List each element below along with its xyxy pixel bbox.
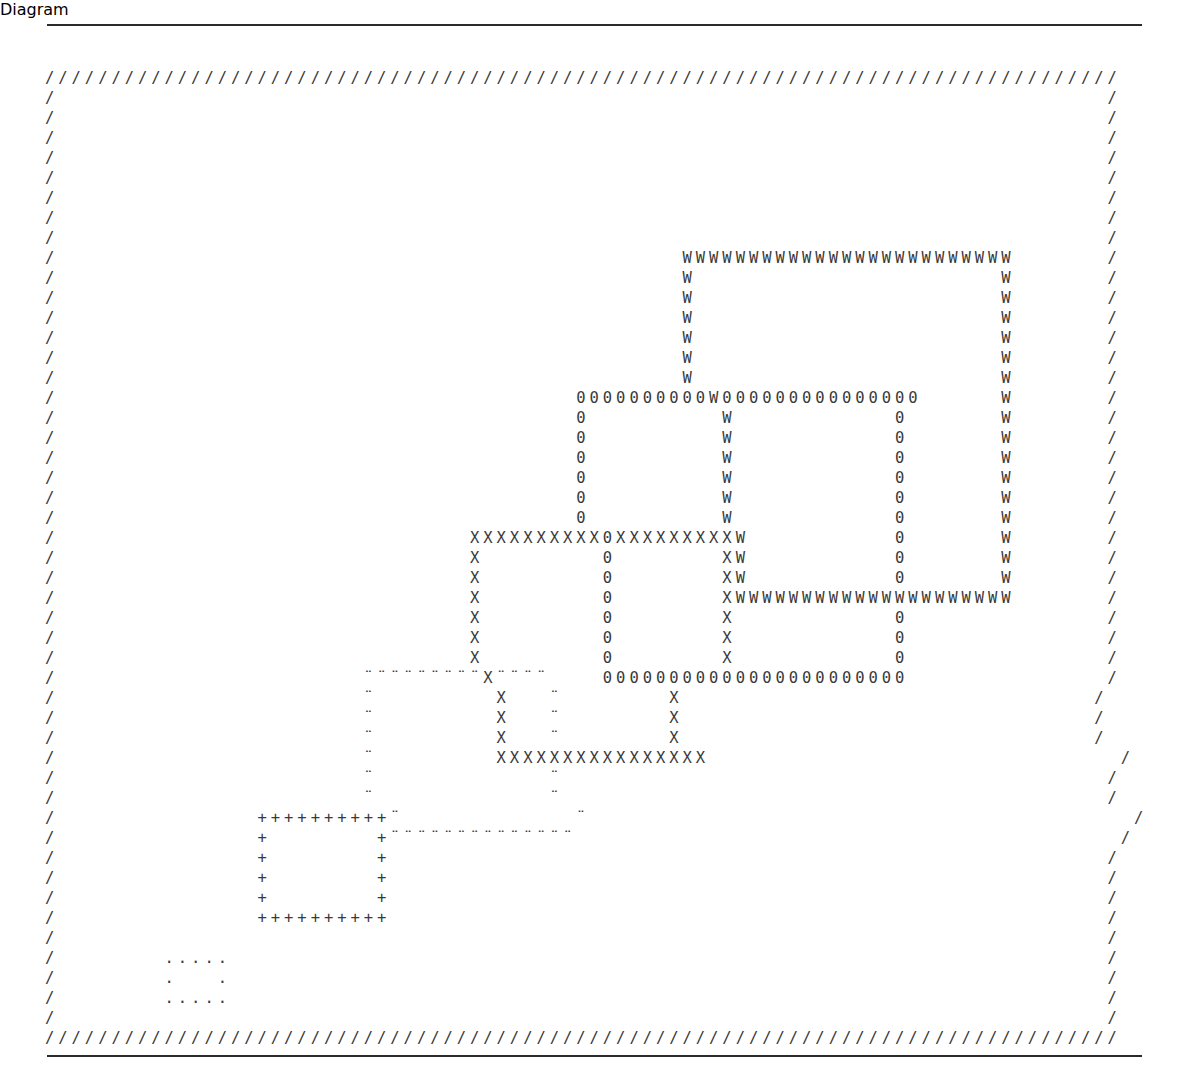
ascii-row-48: ////////////////////////////////////////… [45, 1028, 1147, 1048]
ascii-row-45: / . . / [45, 968, 1147, 988]
ascii-row-42: / ++++++++++ / [45, 908, 1147, 928]
ascii-row-16: / 0000000000W000000000000000 W / [45, 388, 1147, 408]
ascii-row-35: / ¨ ¨ / [45, 768, 1147, 788]
ascii-art-canvas: ////////////////////////////////////////… [45, 68, 1147, 1048]
ascii-row-15: / W W / [45, 368, 1147, 388]
ascii-row-20: / 0 W 0 W / [45, 468, 1147, 488]
ascii-row-11: / W W / [45, 288, 1147, 308]
ascii-row-21: / 0 W 0 W / [45, 488, 1147, 508]
ascii-row-17: / 0 W 0 W / [45, 408, 1147, 428]
ascii-row-24: / X 0 XW 0 W / [45, 548, 1147, 568]
ascii-row-44: / ..... / [45, 948, 1147, 968]
ascii-row-9: / WWWWWWWWWWWWWWWWWWWWWWWWW / [45, 248, 1147, 268]
ascii-row-7: / / [45, 208, 1147, 228]
ascii-row-32: / ¨ X ¨ X / [45, 708, 1147, 728]
ascii-row-23: / XXXXXXXXXX0XXXXXXXXXW 0 W / [45, 528, 1147, 548]
ascii-row-22: / 0 W 0 W / [45, 508, 1147, 528]
ascii-row-8: / / [45, 228, 1147, 248]
ascii-row-14: / W W / [45, 348, 1147, 368]
ascii-row-30: / ¨¨¨¨¨¨¨¨¨X¨¨¨¨ 00000000000000000000000… [45, 668, 1147, 688]
ascii-row-27: / X 0 X 0 / [45, 608, 1147, 628]
ascii-row-3: / / [45, 128, 1147, 148]
ascii-row-12: / W W / [45, 308, 1147, 328]
ascii-row-4: / / [45, 148, 1147, 168]
ascii-row-26: / X 0 XWWWWWWWWWWWWWWWWWWWWW / [45, 588, 1147, 608]
ascii-row-39: / + + / [45, 848, 1147, 868]
ascii-row-38: / + +¨¨¨¨¨¨¨¨¨¨¨¨¨¨ / [45, 828, 1147, 848]
ascii-row-13: / W W / [45, 328, 1147, 348]
ascii-row-0: ////////////////////////////////////////… [45, 68, 1147, 88]
ascii-row-31: / ¨ X ¨ X / [45, 688, 1147, 708]
ascii-row-46: / ..... / [45, 988, 1147, 1008]
ascii-row-18: / 0 W 0 W / [45, 428, 1147, 448]
bottom-horizontal-rule [47, 1055, 1142, 1057]
top-horizontal-rule [47, 24, 1142, 26]
ascii-row-34: / ¨ XXXXXXXXXXXXXXXX / [45, 748, 1147, 768]
ascii-row-33: / ¨ X ¨ X / [45, 728, 1147, 748]
ascii-row-2: / / [45, 108, 1147, 128]
ascii-row-41: / + + / [45, 888, 1147, 908]
ascii-row-1: / / [45, 88, 1147, 108]
ascii-row-29: / X 0 X 0 / [45, 648, 1147, 668]
page-root: ////////////////////////////////////////… [0, 0, 1189, 1071]
ascii-row-37: / ++++++++++¨ ¨ / [45, 808, 1147, 828]
ascii-row-10: / W W / [45, 268, 1147, 288]
ascii-row-36: / ¨ ¨ / [45, 788, 1147, 808]
ascii-row-6: / / [45, 188, 1147, 208]
ascii-row-28: / X 0 X 0 / [45, 628, 1147, 648]
ascii-row-40: / + + / [45, 868, 1147, 888]
ascii-row-25: / X 0 XW 0 W / [45, 568, 1147, 588]
ascii-row-43: / / [45, 928, 1147, 948]
ascii-row-47: / / [45, 1008, 1147, 1028]
ascii-row-5: / / [45, 168, 1147, 188]
ascii-row-19: / 0 W 0 W / [45, 448, 1147, 468]
